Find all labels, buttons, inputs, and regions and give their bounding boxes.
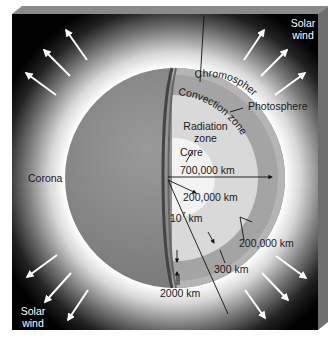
radiation-zone-label: Radiation zone [178, 120, 233, 144]
convection-thickness-label: 200,000 km [239, 237, 294, 249]
box-side-face [318, 6, 328, 330]
photosphere-label: Photosphere [248, 100, 308, 112]
solar-wind-label-top: Solar wind [288, 17, 318, 41]
photosphere-thickness-label: 300 km [214, 263, 248, 275]
chromosphere-thickness-label: 2000 km [160, 287, 200, 299]
corona-extent-label: 107 km [170, 209, 203, 224]
solar-wind-label-bottom: Solar wind [18, 305, 48, 329]
corona-label: Corona [28, 172, 62, 184]
sun-structure-diagram: Chromosphere Convection zone Photosphere… [0, 0, 331, 344]
core-radius-label: 200,000 km [183, 191, 238, 203]
core-label: Core [180, 146, 203, 158]
sun-radius-label: 700,000 km [180, 164, 235, 176]
box-top-face [12, 6, 328, 14]
